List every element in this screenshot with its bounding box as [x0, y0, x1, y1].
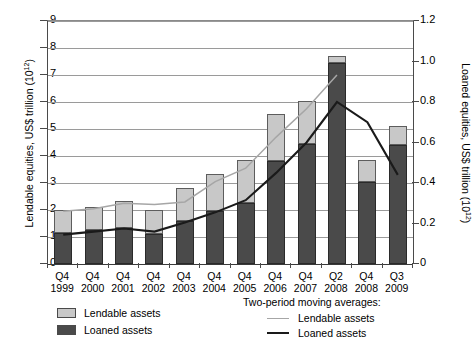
- legend-moving-averages: Two-period moving averages: Lendable ass…: [243, 296, 381, 341]
- x-axis-tick-mark: [199, 263, 200, 268]
- y-axis-left-tick-mark: [40, 20, 47, 21]
- x-axis-tick-mark: [382, 263, 383, 268]
- legend-item-loaned-assets: Loaned assets: [57, 322, 160, 337]
- legend-item-lendable-assets: Lendable assets: [57, 305, 160, 320]
- chart-figure: Lendable equities, US$ trillion (1012) L…: [0, 0, 474, 342]
- x-axis-tick-mark: [260, 263, 261, 268]
- y-axis-left-tick-mark: [40, 128, 47, 129]
- x-axis-tick-quarter: Q3: [377, 270, 417, 282]
- x-axis-tick-label: Q32009: [377, 270, 417, 294]
- y-axis-right-tick-label: 1.2: [420, 13, 448, 25]
- moving-average-line-loaned: [63, 102, 398, 235]
- y-axis-left-tick-mark: [40, 101, 47, 102]
- x-axis-tick-mark: [138, 263, 139, 268]
- y-axis-left-tick-mark: [40, 263, 47, 264]
- y-axis-right-tick-label: 0.4: [420, 175, 448, 187]
- y-axis-left-title-exponent: 12: [23, 63, 30, 71]
- y-axis-right-tick-label: 0.6: [420, 135, 448, 147]
- moving-average-line-lendable: [63, 75, 337, 211]
- legend-item-ma-lendable: Lendable assets: [243, 311, 381, 325]
- x-axis-tick-mark: [351, 263, 352, 268]
- y-axis-right-title-close: ): [460, 220, 472, 224]
- x-axis-tick-mark: [169, 263, 170, 268]
- legend-label-ma-lendable: Lendable assets: [298, 312, 374, 324]
- x-axis-tick-mark: [321, 263, 322, 268]
- y-axis-right-tick-label: 0.2: [420, 216, 448, 228]
- x-axis-tick-mark: [290, 263, 291, 268]
- legend-swatch-lendable: [57, 308, 76, 318]
- legend-label-lendable: Lendable assets: [84, 307, 160, 319]
- moving-average-lines-layer: [48, 21, 413, 264]
- legend-line-loaned: [267, 332, 289, 334]
- y-axis-left-tick-mark: [40, 209, 47, 210]
- y-axis-left-title: Lendable equities, US$ trillion (1012): [23, 18, 36, 268]
- y-axis-left-tick-mark: [40, 182, 47, 183]
- y-axis-left-tick-mark: [40, 236, 47, 237]
- legend-swatch-loaned: [57, 325, 76, 335]
- y-axis-left-tick-mark: [40, 155, 47, 156]
- legend-bars: Lendable assets Loaned assets: [57, 305, 160, 339]
- x-axis-tick-mark: [108, 263, 109, 268]
- y-axis-right-title-exponent: 12: [465, 212, 472, 220]
- y-axis-right-tick-label: 0: [420, 256, 448, 268]
- legend-line-lendable: [267, 318, 289, 319]
- y-axis-right-tick-label: 0.8: [420, 94, 448, 106]
- x-axis-tick-mark: [412, 263, 413, 268]
- y-axis-right-tick-label: 1.0: [420, 54, 448, 66]
- plot-area: [47, 20, 414, 264]
- y-axis-right-title-text: Loaned equities, US$ trillion (10: [460, 63, 472, 212]
- y-axis-right-title: Loaned equities, US$ trillion (1012): [460, 18, 473, 268]
- x-axis-tick-mark: [47, 263, 48, 268]
- y-axis-left-tick-mark: [40, 74, 47, 75]
- x-axis-tick-year: 2009: [377, 282, 417, 294]
- x-axis-tick-mark: [77, 263, 78, 268]
- legend-label-loaned: Loaned assets: [84, 324, 152, 336]
- legend-label-ma-loaned: Loaned assets: [298, 327, 366, 339]
- legend-item-ma-loaned: Loaned assets: [243, 326, 381, 340]
- x-axis-tick-mark: [230, 263, 231, 268]
- y-axis-left-tick-mark: [40, 47, 47, 48]
- y-axis-left-title-close: ): [23, 59, 35, 63]
- y-axis-left-title-text: Lendable equities, US$ trillion (10: [23, 70, 35, 227]
- legend-ma-header: Two-period moving averages:: [243, 296, 381, 308]
